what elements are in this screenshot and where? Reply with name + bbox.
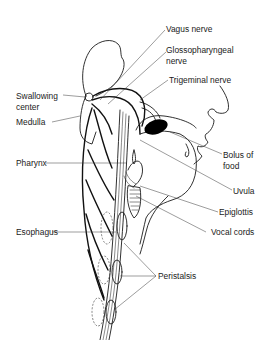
epiglottis-fold-1 — [126, 172, 136, 184]
label-pharynx: Pharynx — [16, 158, 47, 168]
label-esophagus: Esophagus — [16, 227, 58, 237]
label-uvula: Uvula — [233, 186, 254, 196]
label-glossopharyngeal-line1: Glossopharyngeal — [166, 45, 234, 55]
label-glossopharyngeal-line2: nerve — [166, 56, 187, 66]
label-trigeminal-nerve: Trigeminal nerve — [169, 75, 231, 85]
leader-trigeminal — [140, 80, 168, 100]
label-vocal-cords: Vocal cords — [211, 227, 254, 237]
leader-vocal-cords — [136, 196, 206, 232]
anatomy-diagram: Vagus nerve Glossopharyngeal nerve Trige… — [0, 0, 276, 340]
label-epiglottis: Epiglottis — [219, 207, 253, 217]
label-swallowing-center-line2: center — [16, 102, 39, 112]
label-vagus-nerve: Vagus nerve — [166, 24, 212, 34]
epiglottis — [128, 161, 143, 186]
lip-detail — [185, 144, 189, 157]
leader-peristalsis-1 — [124, 243, 156, 276]
leader-swallowing-center — [63, 95, 85, 97]
leader-uvula — [140, 140, 232, 190]
leader-medulla — [52, 116, 80, 122]
peristalsis-bulge-3-left — [92, 298, 104, 326]
peristalsis-bulge-1-left — [101, 212, 113, 244]
bolus-of-food — [142, 117, 169, 138]
leader-epiglottis — [140, 186, 218, 212]
label-peristalsis: Peristalsis — [158, 271, 196, 281]
vagus-spiral-1 — [94, 110, 112, 168]
label-medulla: Medulla — [16, 117, 45, 127]
brain-outline — [83, 41, 124, 96]
label-bolus-line1: Bolus of — [223, 150, 253, 160]
nerve-arc-3 — [92, 104, 112, 134]
label-bolus-line2: food — [223, 161, 239, 171]
label-swallowing-center-line1: Swallowing — [16, 91, 58, 101]
leader-bolus — [170, 132, 222, 154]
